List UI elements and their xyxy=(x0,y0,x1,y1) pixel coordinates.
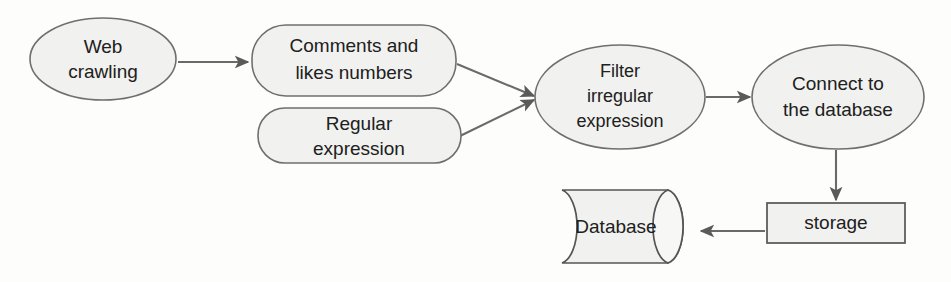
web-crawling-label-line2: crawling xyxy=(68,61,138,82)
edge-regular-expression-to-filter xyxy=(460,100,534,136)
database-cylinder-cap xyxy=(653,190,683,263)
node-web-crawling[interactable]: Web crawling xyxy=(30,18,176,100)
filter-label-line3: expression xyxy=(576,111,663,131)
web-crawling-label-line1: Web xyxy=(84,36,123,57)
storage-label: storage xyxy=(804,212,867,233)
node-database[interactable]: Database xyxy=(562,190,683,263)
node-storage[interactable]: storage xyxy=(767,203,905,243)
edge-comments-to-filter xyxy=(457,64,534,96)
web-crawling-ellipse xyxy=(30,18,176,100)
filter-label-line2: irregular xyxy=(587,86,653,106)
flowchart-svg: Web crawling Comments and likes numbers … xyxy=(0,0,951,282)
connect-label-line1: Connect to xyxy=(792,73,884,94)
connect-ellipse xyxy=(752,45,924,149)
connect-label-line2: the database xyxy=(783,99,893,120)
comments-label-line1: Comments and xyxy=(290,35,419,56)
node-connect-to-the-database[interactable]: Connect to the database xyxy=(752,45,924,149)
diagram-canvas: Web crawling Comments and likes numbers … xyxy=(0,0,951,282)
node-comments-and-likes-numbers[interactable]: Comments and likes numbers xyxy=(252,25,456,96)
filter-label-line1: Filter xyxy=(600,61,640,81)
regular-expression-label-line1: Regular xyxy=(326,113,393,134)
node-filter-irregular-expression[interactable]: Filter irregular expression xyxy=(535,45,705,149)
comments-label-line2: likes numbers xyxy=(295,62,412,83)
node-regular-expression[interactable]: Regular expression xyxy=(258,108,461,163)
regular-expression-label-line2: expression xyxy=(313,138,405,159)
database-label: Database xyxy=(575,216,656,237)
